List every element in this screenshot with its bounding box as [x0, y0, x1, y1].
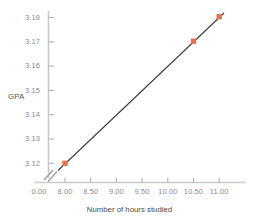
scatter-chart: 3.18 3.17 3.16 3.15 3.14 3.13 3.12 0.00 …: [0, 0, 259, 224]
trend-line: [58, 13, 224, 171]
y-tick-label: 3.12: [14, 159, 40, 168]
axis-break-icon: [44, 170, 57, 182]
x-axis-title: Number of hours studied: [0, 205, 259, 214]
y-tick-label: 3.17: [14, 37, 40, 46]
y-tick-label: 3.14: [14, 110, 40, 119]
y-tick-label: 3.16: [14, 61, 40, 70]
x-tick-label: 11.00: [204, 187, 234, 196]
x-tick-marks: [65, 178, 219, 183]
y-tick-label: 3.18: [14, 13, 40, 22]
y-axis-title: GPA: [8, 92, 24, 101]
data-point: [217, 14, 222, 19]
y-tick-label: 3.13: [14, 134, 40, 143]
y-tick-marks: [49, 18, 55, 164]
data-point: [191, 39, 196, 44]
data-point: [62, 161, 67, 166]
